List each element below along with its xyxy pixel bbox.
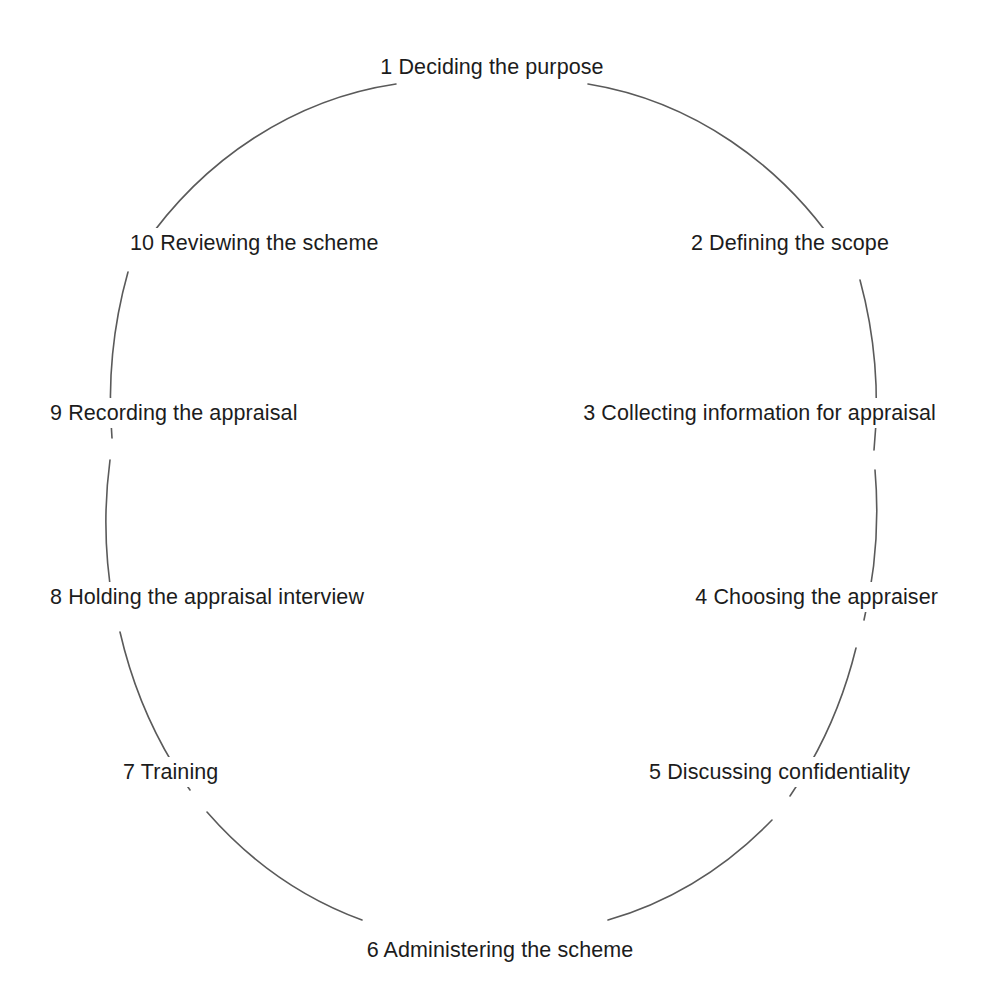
cycle-step-10-label: 10 Reviewing the scheme — [130, 231, 379, 255]
cycle-step-4-label: 4 Choosing the appraiser — [695, 585, 938, 609]
cycle-step-2-label: 2 Defining the scope — [691, 231, 889, 255]
arc-10-to-1 — [142, 84, 396, 248]
diagram-canvas: 1 Deciding the purpose 2 Defining the sc… — [0, 0, 984, 999]
cycle-step-6-label: 6 Administering the scheme — [367, 938, 634, 962]
cycle-step-2[interactable]: 2 Defining the scope — [686, 228, 894, 258]
cycle-step-3-label: 3 Collecting information for appraisal — [583, 401, 936, 425]
cycle-step-8-label: 8 Holding the appraisal interview — [50, 585, 364, 609]
cycle-step-3[interactable]: 3 Collecting information for appraisal — [578, 398, 941, 428]
cycle-step-4[interactable]: 4 Choosing the appraiser — [690, 582, 943, 612]
cycle-ellipse-arcs — [0, 0, 984, 999]
arc-6-to-7 — [207, 812, 362, 920]
cycle-step-7-label: 7 Training — [123, 760, 218, 784]
cycle-step-5[interactable]: 5 Discussing confidentiality — [644, 757, 915, 787]
arc-5-to-6 — [608, 820, 772, 920]
cycle-step-1-label: 1 Deciding the purpose — [380, 55, 603, 79]
cycle-step-8[interactable]: 8 Holding the appraisal interview — [45, 582, 369, 612]
cycle-step-6[interactable]: 6 Administering the scheme — [362, 935, 639, 965]
cycle-step-9-label: 9 Recording the appraisal — [50, 401, 298, 425]
cycle-step-5-label: 5 Discussing confidentiality — [649, 760, 910, 784]
cycle-step-7[interactable]: 7 Training — [118, 757, 223, 787]
cycle-step-9[interactable]: 9 Recording the appraisal — [45, 398, 303, 428]
cycle-step-1[interactable]: 1 Deciding the purpose — [375, 52, 608, 82]
cycle-step-10[interactable]: 10 Reviewing the scheme — [125, 228, 384, 258]
